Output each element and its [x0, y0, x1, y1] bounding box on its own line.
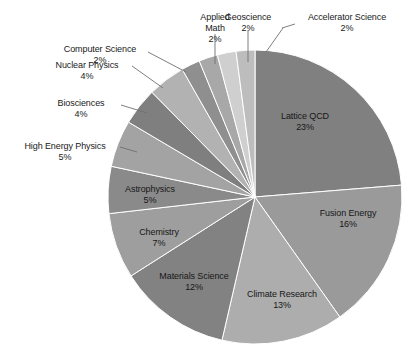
leader-line-computer-science: [148, 52, 186, 72]
slice-label-biosciences: Biosciences 4%: [44, 98, 118, 120]
slice-label-materials-science: Materials Science 12%: [140, 271, 248, 293]
slice-label-chemistry-name: Chemistry: [123, 227, 195, 238]
slice-label-lattice-qcd-name: Lattice QCD: [265, 111, 345, 122]
slice-label-high-energy-physics-name: High Energy Physics: [10, 141, 120, 152]
slice-label-astrophysics-value: 5%: [110, 195, 190, 206]
slice-label-fusion-energy-value: 16%: [305, 219, 391, 230]
slice-label-fusion-energy: Fusion Energy 16%: [305, 208, 391, 230]
slice-label-lattice-qcd-value: 23%: [265, 122, 345, 133]
slice-label-geoscience-value: 2%: [212, 23, 284, 34]
slice-label-high-energy-physics-value: 5%: [10, 152, 120, 163]
slice-label-chemistry: Chemistry 7%: [123, 227, 195, 249]
slice-label-astrophysics: Astrophysics 5%: [110, 184, 190, 206]
slice-label-geoscience-name: Geoscience: [212, 12, 284, 23]
slice-label-computer-science-value: 2%: [52, 55, 148, 66]
slice-label-fusion-energy-name: Fusion Energy: [305, 208, 391, 219]
slice-label-geoscience: Geoscience 2%: [212, 12, 284, 34]
slice-label-climate-research-value: 13%: [230, 300, 334, 311]
slice-label-astrophysics-name: Astrophysics: [110, 184, 190, 195]
pie-chart: Lattice QCD 23% Fusion Energy 16% Climat…: [0, 0, 419, 358]
slice-label-materials-science-name: Materials Science: [140, 271, 248, 282]
slice-label-accelerator-science-value: 2%: [291, 23, 403, 34]
slice-label-materials-science-value: 12%: [140, 282, 248, 293]
slice-label-high-energy-physics: High Energy Physics 5%: [10, 141, 120, 163]
slice-label-accelerator-science: Accelerator Science 2%: [291, 12, 403, 34]
slice-label-accelerator-science-name: Accelerator Science: [291, 12, 403, 23]
slice-label-biosciences-value: 4%: [44, 109, 118, 120]
slice-label-biosciences-name: Biosciences: [44, 98, 118, 109]
slice-label-computer-science: Computer Science 2%: [52, 44, 148, 66]
slice-label-chemistry-value: 7%: [123, 238, 195, 249]
leader-line-nuclear-physics: [132, 66, 163, 88]
slice-label-lattice-qcd: Lattice QCD 23%: [265, 111, 345, 133]
slice-label-computer-science-name: Computer Science: [52, 44, 148, 55]
slice-label-applied-math-value: 2%: [180, 34, 250, 45]
slice-label-nuclear-physics-value: 4%: [44, 71, 130, 82]
